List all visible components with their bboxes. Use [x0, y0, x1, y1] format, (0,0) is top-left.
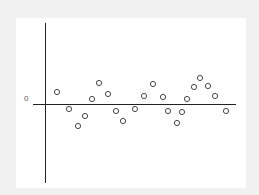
data-point [174, 120, 179, 125]
data-point [132, 106, 137, 111]
data-point [205, 83, 210, 88]
data-point [113, 108, 118, 113]
data-point [120, 118, 125, 123]
data-point [150, 81, 155, 86]
data-point [105, 91, 110, 96]
data-point [82, 113, 87, 118]
data-point [89, 96, 94, 101]
data-point [223, 108, 228, 113]
scatter-plot [0, 0, 259, 195]
data-point [191, 84, 196, 89]
data-point [66, 106, 71, 111]
data-point [197, 75, 202, 80]
data-point [96, 80, 101, 85]
data-point [212, 93, 217, 98]
data-points [54, 75, 228, 128]
data-point [165, 108, 170, 113]
data-point [160, 94, 165, 99]
data-point [75, 123, 80, 128]
data-point [179, 109, 184, 114]
data-point [184, 96, 189, 101]
data-point [141, 93, 146, 98]
data-point [54, 89, 59, 94]
